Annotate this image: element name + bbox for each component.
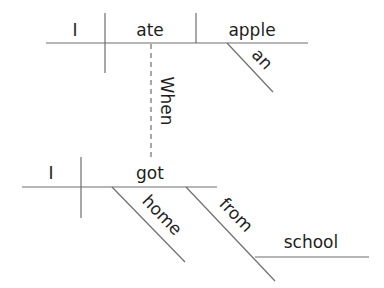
prep-object-school-word: school [284, 232, 339, 252]
sentence-diagram: I ate apple an When I got home from scho… [0, 0, 384, 288]
adverb-home-word: home [138, 191, 186, 240]
sub-verb-word: got [136, 163, 164, 183]
main-object-word: apple [228, 20, 275, 40]
main-subject-word: I [72, 20, 77, 40]
connector: When [151, 44, 177, 158]
sub-clause: I got home from school [22, 157, 369, 281]
main-verb-word: ate [136, 20, 164, 40]
preposition-from-word: from [215, 194, 257, 236]
connector-when-word: When [157, 77, 177, 126]
sub-subject-word: I [48, 163, 53, 183]
